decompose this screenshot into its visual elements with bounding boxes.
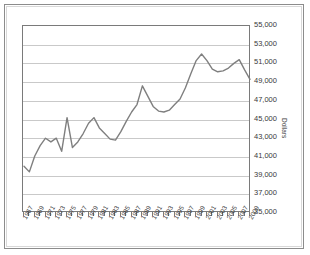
y-axis-tick-label: 41,000	[254, 152, 277, 160]
y-axis-title: Dollars	[281, 118, 288, 138]
plot-area	[22, 25, 250, 212]
y-axis-tick-label: 39,000	[254, 171, 277, 179]
x-axis-labels: 1967196919711973197519771979198119831985…	[22, 217, 282, 253]
line-series-path	[24, 54, 250, 172]
y-axis-tick-label: 47,000	[254, 96, 277, 104]
y-axis-tick-label: 49,000	[254, 77, 277, 85]
y-axis-labels: 55,00053,00051,00049,00047,00045,00043,0…	[254, 25, 294, 212]
y-axis-tick-label: 55,000	[254, 21, 277, 29]
y-axis-tick-label: 37,000	[254, 189, 277, 197]
y-axis-tick-label: 43,000	[254, 133, 277, 141]
y-axis-tick-label: 53,000	[254, 40, 277, 48]
y-axis-tick-label: 45,000	[254, 115, 277, 123]
chart-screenshot: 55,00053,00051,00049,00047,00045,00043,0…	[0, 0, 310, 255]
y-axis-tick-label: 51,000	[254, 58, 277, 66]
line-series-svg	[23, 26, 251, 213]
